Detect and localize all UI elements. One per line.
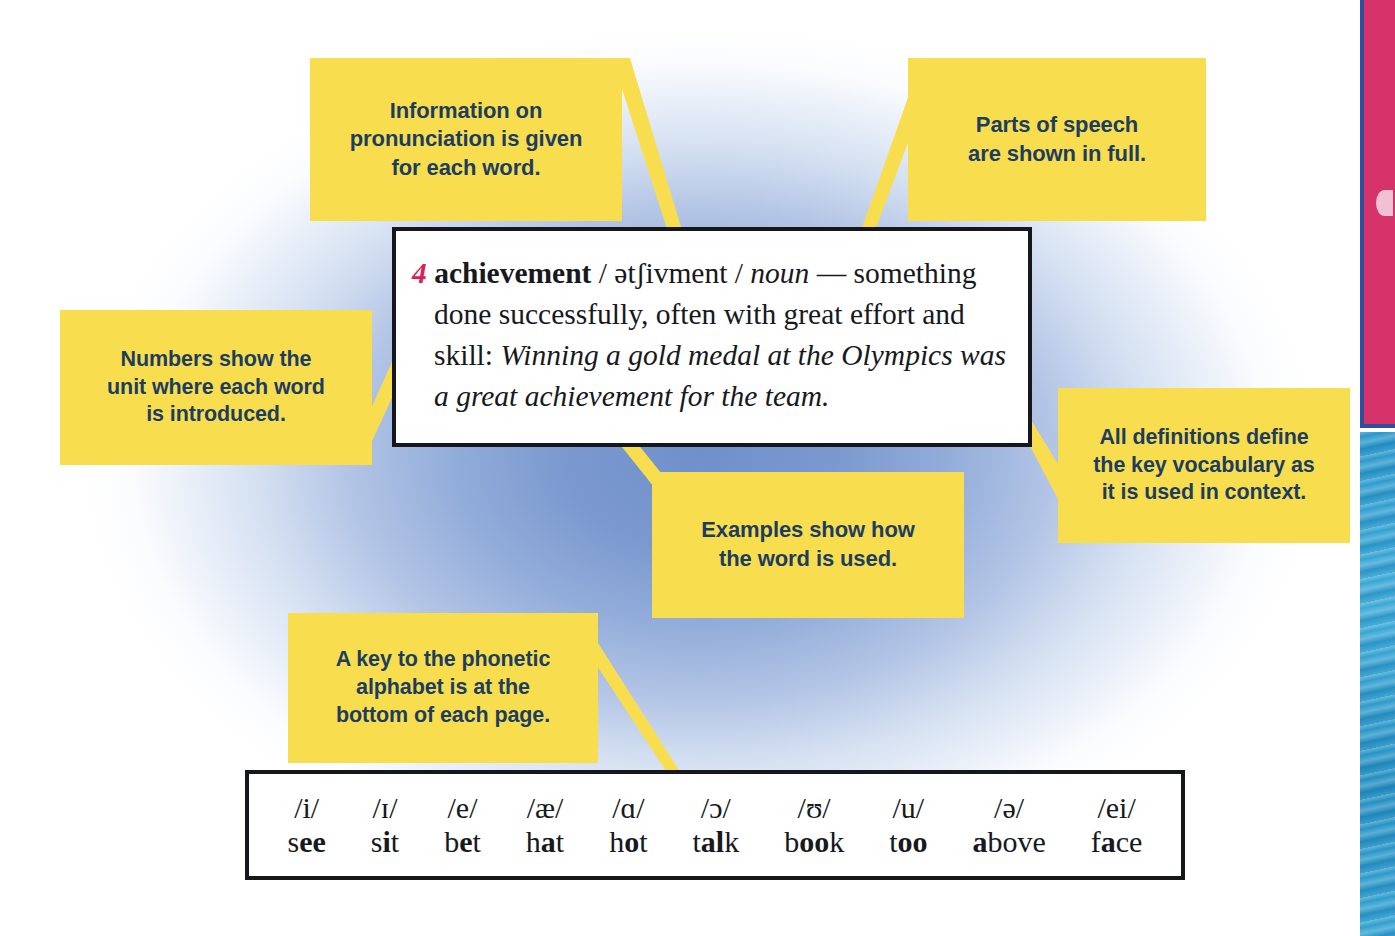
phonetic-word: sit [371, 825, 399, 859]
phonetic-word: hot [609, 825, 647, 859]
phonetic-word: above [972, 825, 1045, 859]
entry-dash: — [817, 257, 847, 289]
phonetic-symbol: /ə/ [972, 791, 1045, 825]
entry-pronunciation: / ətʃivment / [599, 257, 743, 289]
phonetic-key-item: /e/ bet [444, 791, 481, 859]
phonetic-word: bet [444, 825, 481, 859]
callout-examples-text: Examples show how the word is used. [701, 516, 914, 573]
entry-headword: achievement [434, 257, 591, 289]
callout-definitions-context[interactable]: All definitions define the key vocabular… [1058, 388, 1350, 543]
entry-example: Winning a gold medal at the Olympics was… [434, 339, 1006, 412]
phonetic-key-item: /ʊ/ book [784, 791, 844, 859]
phonetic-word: hat [526, 825, 564, 859]
callout-unit-numbers-text: Numbers show the unit where each word is… [107, 346, 325, 430]
phonetic-key-item: /i/ see [287, 791, 325, 859]
phonetic-key-item: /ei/ face [1091, 791, 1143, 859]
phonetic-symbol: /ɔ/ [692, 791, 739, 825]
entry-part-of-speech: noun [750, 257, 809, 289]
callout-pronunciation-text: Information on pronunciation is given fo… [350, 97, 583, 183]
phonetic-key-item: /ɑ/ hot [609, 791, 647, 859]
phonetic-symbol: /æ/ [526, 791, 564, 825]
phonetic-key-item: /ɔ/ talk [692, 791, 739, 859]
phonetic-word: face [1091, 825, 1143, 859]
phonetic-alphabet-key-box: /i/ see /ɪ/ sit /e/ bet /æ/ hat /ɑ/ hot … [245, 770, 1185, 880]
callout-unit-numbers[interactable]: Numbers show the unit where each word is… [60, 310, 372, 465]
phonetic-symbol: /ʊ/ [784, 791, 844, 825]
phonetic-word: see [287, 825, 325, 859]
callout-phonetic-key-text: A key to the phonetic alphabet is at the… [336, 646, 551, 730]
phonetic-symbol: /ɑ/ [609, 791, 647, 825]
phonetic-symbol: /i/ [287, 791, 325, 825]
dictionary-entry-text: 4 achievement / ətʃivment / noun — somet… [396, 231, 1028, 417]
phonetic-word: book [784, 825, 844, 859]
callout-definitions-context-text: All definitions define the key vocabular… [1093, 424, 1314, 508]
phonetic-word: talk [692, 825, 739, 859]
phonetic-key-item: /æ/ hat [526, 791, 564, 859]
phonetic-symbol: /ɪ/ [371, 791, 399, 825]
phonetic-symbol: /u/ [889, 791, 927, 825]
dictionary-entry-box: 4 achievement / ətʃivment / noun — somet… [392, 227, 1032, 447]
phonetic-key-item: /ə/ above [972, 791, 1045, 859]
phonetic-symbol: /ei/ [1091, 791, 1143, 825]
phonetic-key-row: /i/ see /ɪ/ sit /e/ bet /æ/ hat /ɑ/ hot … [249, 791, 1181, 859]
callout-parts-of-speech-text: Parts of speech are shown in full. [968, 111, 1146, 168]
phonetic-word: too [889, 825, 927, 859]
callout-examples[interactable]: Examples show how the word is used. [652, 472, 964, 618]
page-canvas: Information on pronunciation is given fo… [0, 0, 1395, 936]
page-edge-pink-band [1360, 0, 1395, 428]
callout-parts-of-speech[interactable]: Parts of speech are shown in full. [908, 58, 1206, 221]
entry-unit-number: 4 [412, 257, 427, 289]
phonetic-symbol: /e/ [444, 791, 481, 825]
page-edge-blue-band [1360, 432, 1395, 936]
callout-phonetic-key[interactable]: A key to the phonetic alphabet is at the… [288, 613, 598, 763]
phonetic-key-item: /ɪ/ sit [371, 791, 399, 859]
phonetic-key-item: /u/ too [889, 791, 927, 859]
callout-pronunciation[interactable]: Information on pronunciation is given fo… [310, 58, 622, 221]
